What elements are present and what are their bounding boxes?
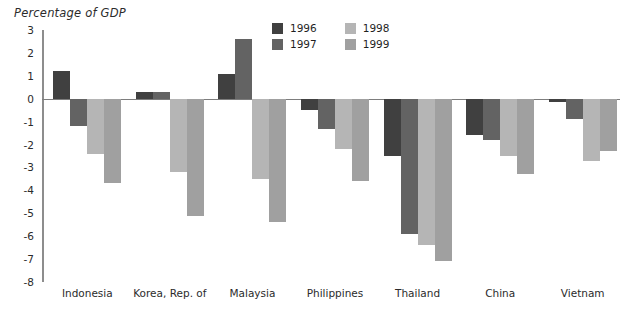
bar-1996[interactable] (384, 99, 401, 156)
bar-1998[interactable] (87, 99, 104, 154)
bar-1999[interactable] (269, 99, 286, 223)
y-axis-tick-label: -5 (8, 207, 34, 219)
bar-1997[interactable] (235, 39, 252, 99)
bar-group-korea-rep-of (136, 30, 204, 282)
y-axis-tick-label: -6 (8, 230, 34, 242)
chart-canvas: Percentage of GDP 1996199819971999 Indon… (0, 0, 634, 318)
bar-1997[interactable] (401, 99, 418, 234)
bar-group-malaysia (218, 30, 286, 282)
bar-1998[interactable] (170, 99, 187, 172)
bar-1996[interactable] (549, 99, 566, 102)
y-axis-tick-label: 2 (8, 47, 34, 59)
bar-1998[interactable] (418, 99, 435, 246)
x-axis-category-label: Indonesia (62, 287, 113, 299)
bar-1999[interactable] (517, 99, 534, 175)
bar-1996[interactable] (218, 74, 235, 99)
bar-1997[interactable] (566, 99, 583, 120)
x-axis-category-label: Thailand (395, 287, 440, 299)
bar-1997[interactable] (70, 99, 87, 126)
bar-group-philippines (301, 30, 369, 282)
y-axis-tick-label: 0 (8, 93, 34, 105)
bar-group-china (466, 30, 534, 282)
bar-1998[interactable] (252, 99, 269, 179)
bar-1999[interactable] (104, 99, 121, 184)
x-axis-category-label: Philippines (307, 287, 364, 299)
bar-1999[interactable] (187, 99, 204, 216)
y-axis-tick-label: -3 (8, 161, 34, 173)
y-axis-tick-label: -2 (8, 139, 34, 151)
bar-1996[interactable] (301, 99, 318, 110)
bar-1997[interactable] (318, 99, 335, 129)
y-axis-tick-label: -4 (8, 184, 34, 196)
chart-axis-title: Percentage of GDP (14, 6, 126, 20)
bar-1997[interactable] (153, 92, 170, 99)
bar-1996[interactable] (136, 92, 153, 99)
bar-group-vietnam (549, 30, 617, 282)
bar-1998[interactable] (500, 99, 517, 156)
bar-1998[interactable] (335, 99, 352, 149)
bar-group-indonesia (53, 30, 121, 282)
bar-1999[interactable] (435, 99, 452, 262)
y-axis-line (42, 30, 44, 282)
x-axis-category-label: Korea, Rep. of (133, 287, 206, 299)
x-axis-category-label: Vietnam (561, 287, 605, 299)
x-axis-category-label: Malaysia (229, 287, 275, 299)
bar-1999[interactable] (352, 99, 369, 181)
y-axis-tick-label: -7 (8, 253, 34, 265)
y-axis-tick-label: 3 (8, 24, 34, 36)
y-axis-tick-label: 1 (8, 70, 34, 82)
x-axis-category-label: China (485, 287, 515, 299)
y-axis-tick-label: -8 (8, 276, 34, 288)
bar-1998[interactable] (583, 99, 600, 161)
bar-1999[interactable] (600, 99, 617, 152)
bar-group-thailand (384, 30, 452, 282)
bar-1997[interactable] (483, 99, 500, 140)
y-axis-tick-label: -1 (8, 116, 34, 128)
plot-area: IndonesiaKorea, Rep. ofMalaysiaPhilippin… (42, 30, 620, 282)
bar-1996[interactable] (53, 71, 70, 98)
bar-1996[interactable] (466, 99, 483, 136)
